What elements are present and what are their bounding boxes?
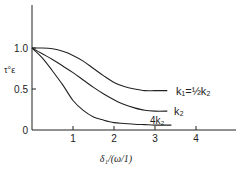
x-tick-label-3: 3 <box>152 133 158 144</box>
x-tick-label-2: 2 <box>111 133 117 144</box>
y-axis-title: τ°ε <box>4 65 15 75</box>
curve-label-k2: k₂ <box>174 105 184 117</box>
y-tick-label-0: 0 <box>22 125 28 136</box>
curve-k2 <box>32 48 167 111</box>
curve-label-4k2: 4k₂ <box>150 115 165 126</box>
curve-k1-half-k2 <box>32 48 167 91</box>
x-axis-title: δ₁/(ω/1) <box>100 153 133 165</box>
y-tick-label-05: 0.5 <box>14 84 28 95</box>
y-tick-label-1: 1.0 <box>14 43 28 54</box>
curve-label-k1-half-k2: k₁=½k₂ <box>176 85 211 97</box>
x-tick-label-4: 4 <box>193 133 199 144</box>
x-tick-label-1: 1 <box>70 133 76 144</box>
chart: 1.0 0.5 0 τ°ε 1 2 3 4 δ₁/(ω/1) k₁=½k₂ k₂… <box>0 0 243 174</box>
